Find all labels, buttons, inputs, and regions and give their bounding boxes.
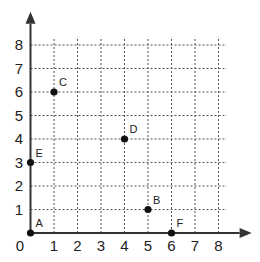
- point-label-c: C: [59, 76, 67, 88]
- point-label-d: D: [130, 123, 138, 135]
- point-label-f: F: [177, 217, 184, 229]
- y-tick-label: 2: [15, 177, 23, 194]
- y-tick-label: 3: [15, 154, 23, 171]
- x-tick-label: 7: [191, 237, 199, 254]
- point-label-e: E: [36, 147, 43, 159]
- x-tick-label: 0: [16, 237, 24, 254]
- x-tick-label: 4: [120, 237, 128, 254]
- data-point-a: [27, 229, 34, 236]
- x-tick-label: 6: [167, 237, 175, 254]
- y-tick-label: 5: [15, 107, 23, 124]
- y-tick-label: 6: [15, 83, 23, 100]
- data-point-c: [50, 88, 57, 95]
- data-point-b: [144, 206, 151, 213]
- point-label-a: A: [36, 217, 44, 229]
- x-tick-label: 5: [144, 237, 152, 254]
- x-tick-label: 3: [97, 237, 105, 254]
- data-point-e: [27, 159, 34, 166]
- data-point-f: [168, 229, 175, 236]
- data-point-d: [121, 135, 128, 142]
- y-tick-label: 1: [15, 201, 23, 218]
- x-tick-label: 8: [214, 237, 222, 254]
- y-tick-label: 7: [15, 60, 23, 77]
- x-tick-label: 1: [50, 237, 58, 254]
- x-axis-arrow-icon: [240, 228, 252, 238]
- x-tick-label: 2: [73, 237, 81, 254]
- coordinate-grid-chart: 01234567812345678ABCDEF: [0, 0, 260, 262]
- y-tick-label: 8: [15, 36, 23, 53]
- y-axis-arrow-icon: [26, 12, 36, 24]
- y-tick-label: 4: [15, 130, 23, 147]
- point-label-b: B: [153, 194, 160, 206]
